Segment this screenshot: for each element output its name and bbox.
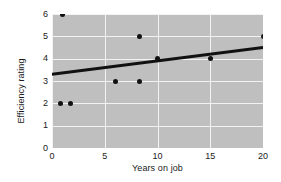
y-axis-ticks: 0123456 [32,14,48,148]
data-point [58,101,63,106]
data-point [208,56,213,61]
y-tick-label: 3 [34,77,48,86]
x-tick-label: 15 [198,151,222,161]
y-axis-title: Efficiency rating [14,0,28,182]
data-point [137,34,142,39]
x-tick-label: 0 [40,151,64,161]
y-tick-label: 6 [34,10,48,19]
plot-area [52,14,263,148]
y-tick-label: 4 [34,54,48,63]
x-tick-label: 10 [146,151,170,161]
data-point [60,14,65,17]
x-axis-title: Years on job [52,163,263,173]
x-tick-label: 5 [93,151,117,161]
data-point [137,79,142,84]
y-tick-label: 1 [34,121,48,130]
regression-line [52,14,263,148]
x-tick-label: 20 [251,151,275,161]
data-point [261,34,264,39]
y-tick-label: 5 [34,32,48,41]
data-point [113,79,118,84]
scatter-chart: Efficiency rating 0123456 05101520 Years… [0,0,281,182]
x-axis-ticks: 05101520 [52,151,263,163]
y-tick-label: 2 [34,99,48,108]
